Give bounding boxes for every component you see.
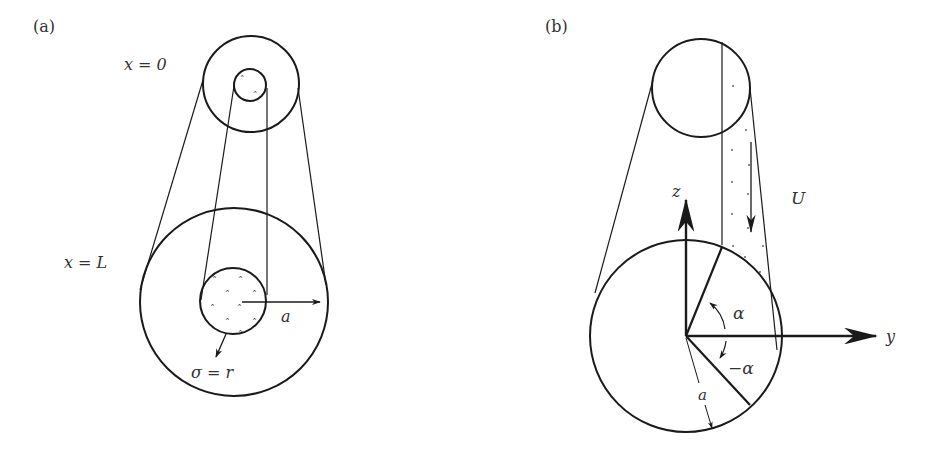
svg-text:˄: ˄	[237, 302, 242, 313]
label-neg-alpha: −α	[728, 358, 754, 378]
svg-text:˄: ˄	[225, 316, 230, 327]
svg-text:˄: ˄	[210, 302, 215, 313]
svg-text:˄: ˄	[240, 74, 245, 84]
sigma-arrow	[216, 334, 226, 357]
label-x0: x = 0	[124, 55, 167, 74]
wedge-edge-upper	[686, 247, 722, 336]
panel-a: (a) ˄ ˄ x = 0 ˄ ˄ ˄ ˄ ˄ ˄ ˄ ˄ ˄ a	[33, 17, 328, 396]
svg-text:˄: ˄	[238, 328, 243, 339]
panel-b-tag: (b)	[545, 17, 568, 36]
label-y: y	[885, 327, 896, 346]
top-circle	[652, 39, 750, 137]
label-alpha: α	[733, 303, 745, 323]
svg-text:˄: ˄	[212, 274, 217, 285]
label-z: z	[671, 182, 681, 201]
label-xL: x = L	[64, 253, 107, 272]
outer-tangent-left	[140, 80, 203, 290]
figure: (a) ˄ ˄ x = 0 ˄ ˄ ˄ ˄ ˄ ˄ ˄ ˄ ˄ a	[0, 0, 929, 450]
svg-text:˄: ˄	[252, 288, 257, 299]
outer-circle-x0	[203, 36, 299, 132]
label-radius-b: a	[698, 386, 707, 404]
radius-line	[686, 338, 699, 383]
label-U: U	[791, 188, 806, 208]
label-sigma: σ = r	[191, 363, 235, 382]
svg-text:˄: ˄	[252, 316, 257, 327]
svg-text:˄: ˄	[225, 288, 230, 299]
radius-arrow-b	[705, 405, 712, 428]
tangent-right	[750, 88, 777, 350]
angle-arc-alpha	[710, 303, 725, 329]
panel-a-tag: (a)	[33, 17, 55, 36]
panel-b: (b) U z y α −α	[545, 17, 896, 432]
angle-arc-neg-alpha	[720, 341, 726, 358]
tangent-left	[595, 80, 653, 293]
label-radius-a: a	[281, 307, 291, 326]
outer-tangent-right	[298, 88, 326, 285]
svg-text:˄: ˄	[238, 274, 243, 285]
svg-text:˄: ˄	[253, 90, 258, 100]
